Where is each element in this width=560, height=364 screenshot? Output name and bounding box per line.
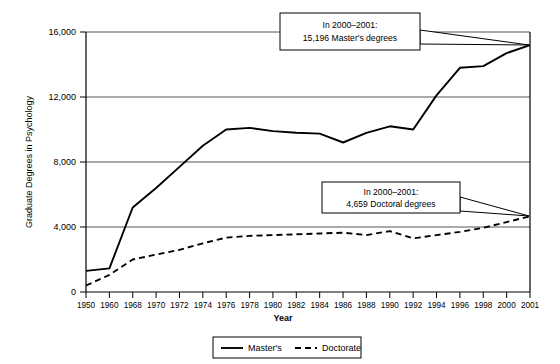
psychology-degrees-line-chart: 16,000 12,000 8,000 4,000 0 Graduate Deg… [0, 0, 560, 364]
masters-callout-line2: 15,196 Master's degrees [303, 33, 397, 43]
data-series [86, 45, 530, 285]
doctorate-callout-line1: In 2000–2001: [364, 187, 419, 197]
y-tickmarks [80, 32, 86, 292]
y-tick-labels: 16,000 12,000 8,000 4,000 0 [48, 27, 76, 297]
y-tick-label-8000: 8,000 [53, 157, 76, 167]
x-tick-label-1978: 1978 [240, 301, 259, 310]
x-tick-label-1990: 1990 [381, 301, 400, 310]
x-tick-label-1982: 1982 [287, 301, 306, 310]
y-axis-title: Graduate Degrees in Psychology [24, 95, 34, 228]
x-tick-label-1976: 1976 [217, 301, 236, 310]
x-tick-label-1996: 1996 [451, 301, 470, 310]
x-axis-ticks-and-labels: 1950196019681970197219741976197819801982… [77, 292, 540, 310]
x-tick-label-1974: 1974 [194, 301, 213, 310]
x-tick-label-1968: 1968 [124, 301, 143, 310]
chart-legend: Master's Doctorate [213, 337, 361, 358]
legend-label-doctorate: Doctorate [322, 343, 361, 353]
x-tick-label-1994: 1994 [427, 301, 446, 310]
x-axis-title: Year [273, 313, 293, 323]
doctorate-callout-line2: 4,659 Doctoral degrees [346, 199, 435, 209]
y-tick-label-12000: 12,000 [48, 92, 76, 102]
x-tick-label-1960: 1960 [100, 301, 119, 310]
y-tick-label-0: 0 [71, 287, 76, 297]
x-tick-label-1986: 1986 [334, 301, 353, 310]
x-tick-label-1992: 1992 [404, 301, 423, 310]
masters-callout-box [280, 13, 420, 50]
x-tick-label-1980: 1980 [264, 301, 283, 310]
x-tick-label-2000: 2000 [498, 301, 517, 310]
y-tick-label-16000: 16,000 [48, 27, 76, 37]
x-tick-label-1950: 1950 [77, 301, 96, 310]
x-tick-label-1998: 1998 [474, 301, 493, 310]
doctorate-callout-pointer [460, 197, 529, 216]
x-tick-label-1972: 1972 [170, 301, 189, 310]
y-tick-label-4000: 4,000 [53, 222, 76, 232]
chart-svg: 16,000 12,000 8,000 4,000 0 Graduate Deg… [0, 0, 560, 364]
series-line-masters [86, 45, 530, 271]
x-tick-label-2001: 2001 [521, 301, 540, 310]
x-tick-label-1988: 1988 [357, 301, 376, 310]
legend-label-masters: Master's [248, 343, 282, 353]
x-tick-label-1970: 1970 [147, 301, 166, 310]
x-tick-label-1984: 1984 [311, 301, 330, 310]
doctorate-callout: In 2000–2001: 4,659 Doctoral degrees [322, 182, 529, 216]
masters-callout-line1: In 2000–2001: [323, 20, 378, 30]
